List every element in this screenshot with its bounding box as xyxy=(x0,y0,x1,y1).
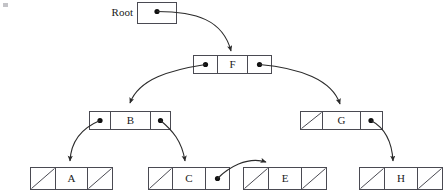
node-b[interactable]: B xyxy=(90,112,171,130)
node-c-label: C xyxy=(185,172,192,184)
root-label: Root xyxy=(112,6,133,18)
node-g-label: G xyxy=(338,114,346,126)
node-g[interactable]: G xyxy=(301,112,383,130)
binary-tree-diagram: Root F B xyxy=(0,0,446,193)
node-f-label: F xyxy=(229,58,235,70)
node-e-label: E xyxy=(282,172,289,184)
diagram-canvas: Root F B xyxy=(0,0,446,193)
node-a-label: A xyxy=(68,172,76,184)
node-h[interactable]: H xyxy=(360,168,443,190)
root-group: Root xyxy=(112,3,177,24)
node-h-label: H xyxy=(397,172,405,184)
node-b-label: B xyxy=(127,114,134,126)
node-e[interactable]: E xyxy=(244,168,327,190)
node-c[interactable]: C xyxy=(149,168,230,190)
node-a[interactable]: A xyxy=(31,168,113,190)
